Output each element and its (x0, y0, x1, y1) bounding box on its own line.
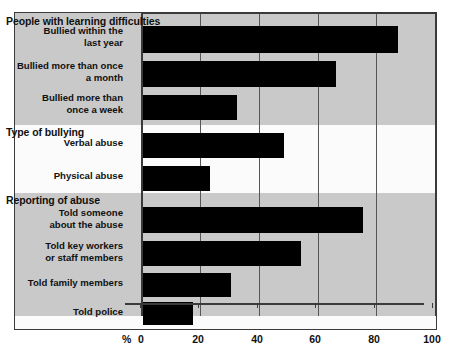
category-label-physical-abuse: Physical abuse (0, 170, 123, 182)
gridline-80 (376, 14, 377, 316)
bar-bullied-more-than-once-a-month (143, 61, 336, 87)
tick-60 (315, 303, 316, 308)
bar-bullied-within-last-year (143, 26, 398, 53)
category-label-verbal-abuse: Verbal abuse (0, 137, 123, 149)
bar-told-family-members (143, 273, 231, 297)
bar-chart: People with learning difficulties Type o… (0, 0, 455, 356)
bar-physical-abuse (143, 166, 210, 191)
category-label-bullied-more-than-once-a-week: Bullied more than once a week (0, 92, 123, 115)
tick-label-20: 20 (178, 333, 218, 345)
section-header-reporting: Reporting of abuse (6, 194, 100, 206)
plot-area (141, 13, 437, 316)
category-label-told-family-members: Told family members (0, 277, 123, 289)
tick-0 (140, 303, 141, 308)
gridline-20 (200, 14, 201, 316)
x-axis-line (125, 303, 424, 305)
tick-100 (432, 303, 433, 308)
tick-label-80: 80 (354, 333, 394, 345)
bar-told-key-workers-or-staff-members (143, 241, 301, 266)
bar-bullied-more-than-once-a-week (143, 95, 237, 120)
tick-label-40: 40 (237, 333, 277, 345)
category-label-bullied-more-than-once-a-month: Bullied more than once a month (0, 60, 123, 83)
bar-told-someone-about-the-abuse (143, 207, 363, 233)
tick-20 (198, 303, 199, 308)
category-label-told-key-workers-or-staff-members: Told key workers or staff members (0, 240, 123, 263)
tick-80 (374, 303, 375, 308)
gridline-60 (318, 14, 319, 316)
tick-label-100: 100 (412, 333, 452, 345)
bar-verbal-abuse (143, 133, 284, 158)
tick-40 (257, 303, 258, 308)
bar-told-police (143, 302, 193, 325)
category-label-bullied-within-last-year: Bullied within the last year (0, 25, 123, 48)
axis-band (15, 316, 436, 329)
category-label-told-police: Told police (0, 306, 123, 318)
category-label-told-someone-about-the-abuse: Told someone about the abuse (0, 207, 123, 230)
gridline-40 (259, 14, 260, 316)
tick-label-60: 60 (295, 333, 335, 345)
tick-label-0: 0 (121, 333, 161, 345)
